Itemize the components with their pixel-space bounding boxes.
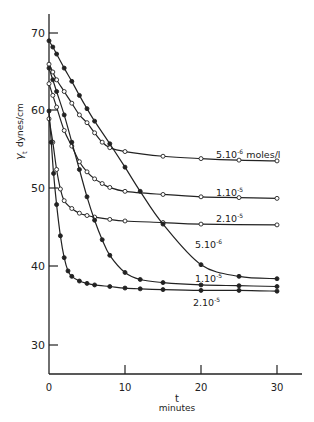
x-tick-labels: 0 10 20 30 [46,382,284,393]
series-2 [47,117,279,227]
series-5 [47,109,279,293]
svg-text:30: 30 [271,382,284,393]
x-ticks [125,365,277,374]
svg-text:40: 40 [31,260,45,273]
label-open-5e6: 5.10-6moles/l [216,148,280,160]
svg-text:dynes/cm: dynes/cm [15,103,25,147]
svg-text:t: t [21,151,29,154]
y-axis-label: γ t dynes/cm [13,103,29,160]
svg-text:60: 60 [31,104,45,117]
label-filled-2e5: 2.10-5 [193,296,220,308]
chart: 70 60 50 40 30 0 10 20 30 t minutes γ t … [0,0,314,422]
curves [47,39,279,293]
svg-text:50: 50 [31,182,45,195]
x-axis-units: minutes [159,403,196,413]
series-labels: 5.10-6moles/l 1.10-5 2.10-5 5.10-6 1.10-… [193,148,280,308]
label-filled-1e5: 1.10-5 [195,272,222,284]
svg-text:0: 0 [46,382,52,393]
svg-text:10: 10 [119,382,132,393]
label-open-2e5: 2.10-5 [216,212,243,224]
svg-text:20: 20 [195,382,208,393]
svg-text:70: 70 [31,27,45,40]
svg-text:30: 30 [31,339,45,352]
series-0 [47,62,279,163]
y-tick-labels: 70 60 50 40 30 [31,27,45,352]
label-filled-5e6: 5.10-6 [195,238,222,250]
